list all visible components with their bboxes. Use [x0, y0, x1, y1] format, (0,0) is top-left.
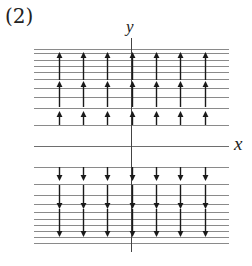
field-diagram	[0, 0, 252, 266]
field-arrows	[60, 55, 206, 234]
